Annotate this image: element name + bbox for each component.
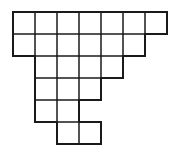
grid-cell — [35, 78, 57, 100]
grid-cell — [35, 34, 57, 56]
grid-cell — [79, 56, 101, 78]
grid-cell — [79, 34, 101, 56]
grid-cell — [101, 34, 123, 56]
grid-cell — [79, 12, 101, 34]
grid-cell — [13, 34, 35, 56]
grid-cell — [79, 122, 101, 144]
grid-cell — [35, 100, 57, 122]
grid-cell — [57, 78, 79, 100]
grid-cell — [57, 56, 79, 78]
grid-cell — [101, 12, 123, 34]
grid-cell — [123, 12, 145, 34]
grid-cell — [57, 122, 79, 144]
grid-cell — [123, 34, 145, 56]
grid-cell — [35, 56, 57, 78]
grid-cell — [57, 100, 79, 122]
grid-cell — [145, 12, 167, 34]
grid-cell — [35, 12, 57, 34]
grid-cell — [101, 56, 123, 78]
cell-grid-diagram — [0, 0, 174, 166]
grid-cell — [13, 12, 35, 34]
grid-cell — [79, 78, 101, 100]
grid-cell — [57, 34, 79, 56]
grid-cell — [57, 12, 79, 34]
